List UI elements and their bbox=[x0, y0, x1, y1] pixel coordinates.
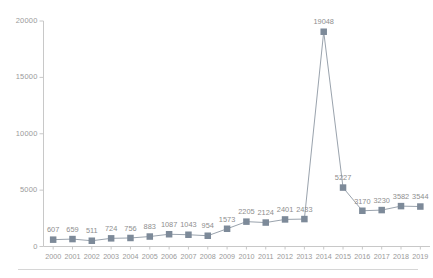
data-point-label: 2433 bbox=[287, 205, 321, 214]
bottom-divider bbox=[18, 269, 418, 270]
plot-area bbox=[0, 0, 433, 278]
data-point-marker bbox=[378, 207, 385, 214]
data-point-marker bbox=[301, 216, 308, 223]
y-axis-tick-label: 15000 bbox=[4, 72, 38, 81]
data-point-marker bbox=[127, 235, 133, 242]
data-point-label: 3544 bbox=[403, 192, 433, 201]
data-point-marker bbox=[69, 236, 76, 243]
data-point-label: 19048 bbox=[307, 17, 341, 26]
y-axis-tick-label: 5000 bbox=[4, 185, 38, 194]
data-point-marker bbox=[320, 28, 327, 35]
data-point-marker bbox=[282, 216, 289, 223]
x-axis-tick-label: 2019 bbox=[405, 252, 433, 261]
data-point-marker bbox=[340, 184, 347, 191]
data-point-marker bbox=[89, 237, 96, 244]
data-point-marker bbox=[262, 219, 269, 226]
y-axis-tick-label: 0 bbox=[4, 242, 38, 251]
data-point-marker bbox=[147, 233, 154, 240]
data-point-marker bbox=[224, 226, 231, 233]
data-point-label: 5227 bbox=[326, 173, 360, 182]
data-point-marker bbox=[185, 231, 192, 238]
y-axis-ticks bbox=[40, 21, 44, 247]
data-point-marker bbox=[50, 236, 57, 243]
data-point-marker bbox=[398, 203, 405, 210]
line-chart-figure: 05000100001500020000 2000200120022003200… bbox=[0, 0, 433, 278]
data-point-marker bbox=[243, 218, 250, 225]
y-axis-tick-label: 10000 bbox=[4, 129, 38, 138]
data-point-marker bbox=[417, 203, 424, 210]
data-point-marker bbox=[205, 232, 212, 239]
y-axis-tick-label: 20000 bbox=[4, 16, 38, 25]
data-point-marker bbox=[166, 231, 173, 238]
data-point-marker bbox=[108, 235, 115, 242]
data-point-marker bbox=[359, 208, 366, 215]
